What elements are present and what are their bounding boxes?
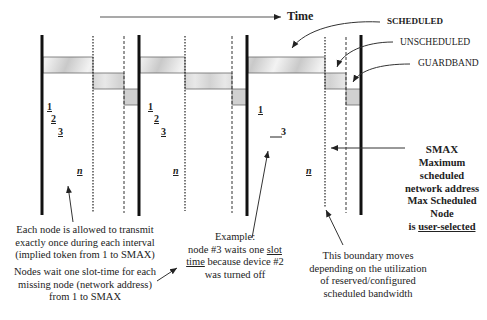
note-line: scheduled bandwidth [308, 288, 428, 301]
interval-2 [139, 35, 247, 216]
max-node-line1: Max Scheduled Node [396, 194, 487, 220]
node-label: n [306, 165, 312, 176]
note-line: Each node is allowed to transmit [5, 224, 165, 237]
note-line: exactly once during each interval [5, 237, 165, 250]
node-label: 3 [281, 126, 286, 137]
guardband-band [232, 89, 247, 105]
example-text: node #3 waits one [188, 244, 267, 255]
legend-unscheduled: UNSCHEDULED [400, 37, 470, 47]
max-node-prefix: is [409, 221, 419, 232]
example-note: Example: node #3 waits one slot time bec… [175, 231, 295, 281]
scheduled-band [248, 57, 325, 73]
guardband-band [124, 89, 139, 105]
note-line: from 1 to SMAX [5, 291, 165, 304]
node-label: 1 [47, 101, 52, 112]
example-note-arrow [252, 151, 268, 238]
legend-guardband: GUARDBAND [418, 58, 479, 68]
slot-text: slot [267, 244, 282, 255]
max-scheduled-node-note: Max Scheduled Node is user-selected [396, 194, 487, 233]
node-label: 2 [51, 113, 56, 124]
smax-description: SMAX Maximum scheduled network address [400, 143, 484, 195]
smax-line1: Maximum scheduled [400, 156, 484, 182]
note-line: depending on the utilization [308, 263, 428, 276]
max-node-line2: is user-selected [396, 220, 487, 233]
time-label: Time [287, 9, 313, 24]
node-label: 1 [258, 104, 263, 115]
unscheduled-band [325, 73, 346, 89]
each-node-note-arrow [68, 186, 73, 222]
each-node-note: Each node is allowed to transmit exactly… [5, 224, 165, 262]
boundary-note: This boundary moves depending on the uti… [308, 250, 428, 300]
node-label: 2 [154, 113, 159, 124]
note-line: missing node (network address) [5, 279, 165, 292]
note-line: (implied token from 1 to SMAX) [5, 249, 165, 262]
node-label: n [173, 165, 179, 176]
time-text: time [186, 256, 205, 267]
interval-3 [247, 35, 368, 216]
note-line: Example: [175, 231, 295, 244]
node-label: 1 [148, 101, 153, 112]
user-selected-text: user-selected [418, 221, 475, 232]
note-line: was turned off [175, 269, 295, 282]
note-line: node #3 waits one slot [175, 244, 295, 257]
note-line: Nodes wait one slot-time for each [5, 266, 165, 279]
node-label: 3 [161, 126, 166, 137]
node-label: n [77, 165, 83, 176]
note-line: of reserved/configured [308, 275, 428, 288]
interval-1 [42, 35, 139, 215]
note-line: This boundary moves [308, 250, 428, 263]
scheduled-callout-arrow [292, 22, 380, 48]
guardband-band [346, 89, 361, 105]
unscheduled-band [185, 73, 232, 89]
example-text: because device #2 [205, 256, 284, 267]
node-label: 3 [58, 126, 63, 137]
note-line: time because device #2 [175, 256, 295, 269]
nodes-wait-note: Nodes wait one slot-time for each missin… [5, 266, 165, 304]
unscheduled-band [93, 73, 124, 89]
legend-scheduled: SCHEDULED [387, 16, 443, 26]
scheduled-band [43, 57, 93, 73]
boundary-note-arrow [326, 210, 343, 245]
scheduled-band [140, 57, 185, 73]
smax-title: SMAX [400, 143, 484, 156]
